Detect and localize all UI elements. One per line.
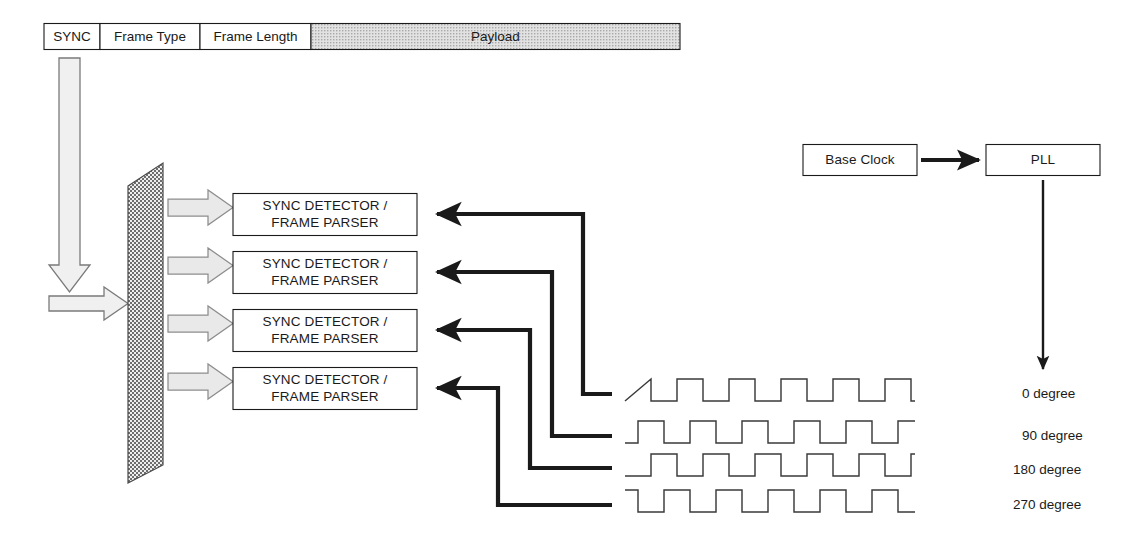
detector-2-line2: FRAME PARSER xyxy=(271,273,378,288)
phase-label-90: 90 degree xyxy=(1022,428,1083,444)
detector-box-3: SYNC DETECTOR / FRAME PARSER xyxy=(233,314,417,348)
base-clock-label: Base Clock xyxy=(803,152,917,168)
waveform-180-degree xyxy=(625,454,915,476)
frame-cell-frame-type: Frame Type xyxy=(100,29,200,45)
phase-label-180: 180 degree xyxy=(1013,462,1081,478)
detector-box-4: SYNC DETECTOR / FRAME PARSER xyxy=(233,372,417,406)
diagram-canvas: SYNC Frame Type Frame Length Payload SYN… xyxy=(0,0,1148,550)
signal-splitter-slab xyxy=(128,163,163,483)
detector-box-2: SYNC DETECTOR / FRAME PARSER xyxy=(233,256,417,290)
detector-2-line1: SYNC DETECTOR / xyxy=(262,256,387,271)
splitter-output-arrows xyxy=(168,190,233,399)
detector-1-line2: FRAME PARSER xyxy=(271,215,378,230)
phase-waveform-group xyxy=(625,379,915,512)
detector-box-1: SYNC DETECTOR / FRAME PARSER xyxy=(233,198,417,232)
splitter-input-arrow xyxy=(49,287,128,320)
waveform-270-degree xyxy=(625,490,915,512)
detector-3-line2: FRAME PARSER xyxy=(271,331,378,346)
frame-cell-payload: Payload xyxy=(311,29,680,45)
waveform-0-degree xyxy=(625,379,915,401)
detector-4-line1: SYNC DETECTOR / xyxy=(262,372,387,387)
frame-cell-frame-length: Frame Length xyxy=(200,29,311,45)
clock-chain-graphics xyxy=(803,145,1100,370)
waveform-90-degree xyxy=(625,421,915,443)
detector-1-line1: SYNC DETECTOR / xyxy=(262,198,387,213)
frame-cell-sync: SYNC xyxy=(44,29,100,45)
clock-feedback-routing xyxy=(437,214,612,505)
pll-label: PLL xyxy=(986,152,1100,168)
phase-label-270: 270 degree xyxy=(1013,497,1081,513)
detector-4-line2: FRAME PARSER xyxy=(271,389,378,404)
diagram-graphics xyxy=(0,0,1148,550)
input-stream-down-arrow xyxy=(49,58,90,292)
detector-3-line1: SYNC DETECTOR / xyxy=(262,314,387,329)
phase-label-0: 0 degree xyxy=(1022,386,1075,402)
